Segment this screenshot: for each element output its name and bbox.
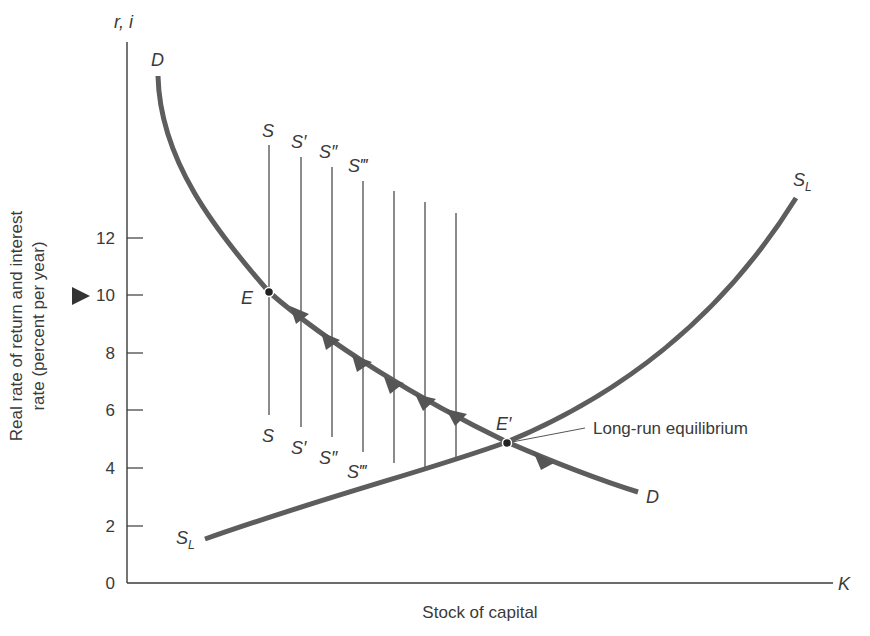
- s2-bottom-label: S″: [319, 448, 338, 468]
- s1-top-label: S′: [291, 132, 307, 152]
- y-axis-title: Real rate of return and interest rate (p…: [7, 210, 48, 441]
- y-axis-symbol: r, i: [114, 12, 134, 32]
- arrow-icon: [352, 355, 372, 372]
- x-axis-symbol: K: [838, 574, 851, 594]
- point-e-label: E: [241, 288, 254, 308]
- y-ticks: 12 10 8 6 4 2 0: [96, 229, 143, 593]
- tick-8: 8: [106, 344, 115, 363]
- capital-market-chart: r, i K 12 10 8 6 4 2 0 Real rate of retu…: [0, 0, 870, 636]
- demand-curve: [158, 76, 638, 492]
- short-run-supply-lines: [269, 145, 456, 468]
- tick-0: 0: [106, 574, 115, 593]
- tick-12: 12: [96, 229, 115, 248]
- tick-2: 2: [106, 517, 115, 536]
- point-e-prime-label: E′: [496, 414, 512, 434]
- tick-6: 6: [106, 401, 115, 420]
- arrow-icon: [321, 332, 340, 350]
- s0-bottom-label: S: [262, 426, 274, 446]
- sl-top-label: SL: [793, 170, 812, 194]
- s0-top-label: S: [262, 121, 274, 141]
- long-run-equilibrium-label: Long-run equilibrium: [593, 419, 748, 438]
- s1-bottom-label: S′: [291, 438, 307, 458]
- svg-text:rate (percent per year): rate (percent per year): [29, 241, 48, 410]
- x-axis-title: Stock of capital: [422, 603, 537, 622]
- tick-4: 4: [106, 459, 115, 478]
- point-e-prime: [503, 439, 512, 448]
- d-top-label: D: [151, 50, 164, 70]
- sl-bottom-label: SL: [176, 528, 195, 552]
- long-run-supply-curve: [205, 198, 796, 539]
- s3-bottom-label: S‴: [347, 462, 368, 482]
- point-e: [265, 288, 274, 297]
- tick-10: 10: [96, 286, 115, 305]
- tick-10-marker-icon: [72, 287, 90, 305]
- d-bottom-label: D: [646, 487, 659, 507]
- s3-top-label: S‴: [348, 156, 369, 176]
- svg-text:Real rate of return and intere: Real rate of return and interest: [7, 210, 26, 441]
- s2-top-label: S″: [319, 142, 338, 162]
